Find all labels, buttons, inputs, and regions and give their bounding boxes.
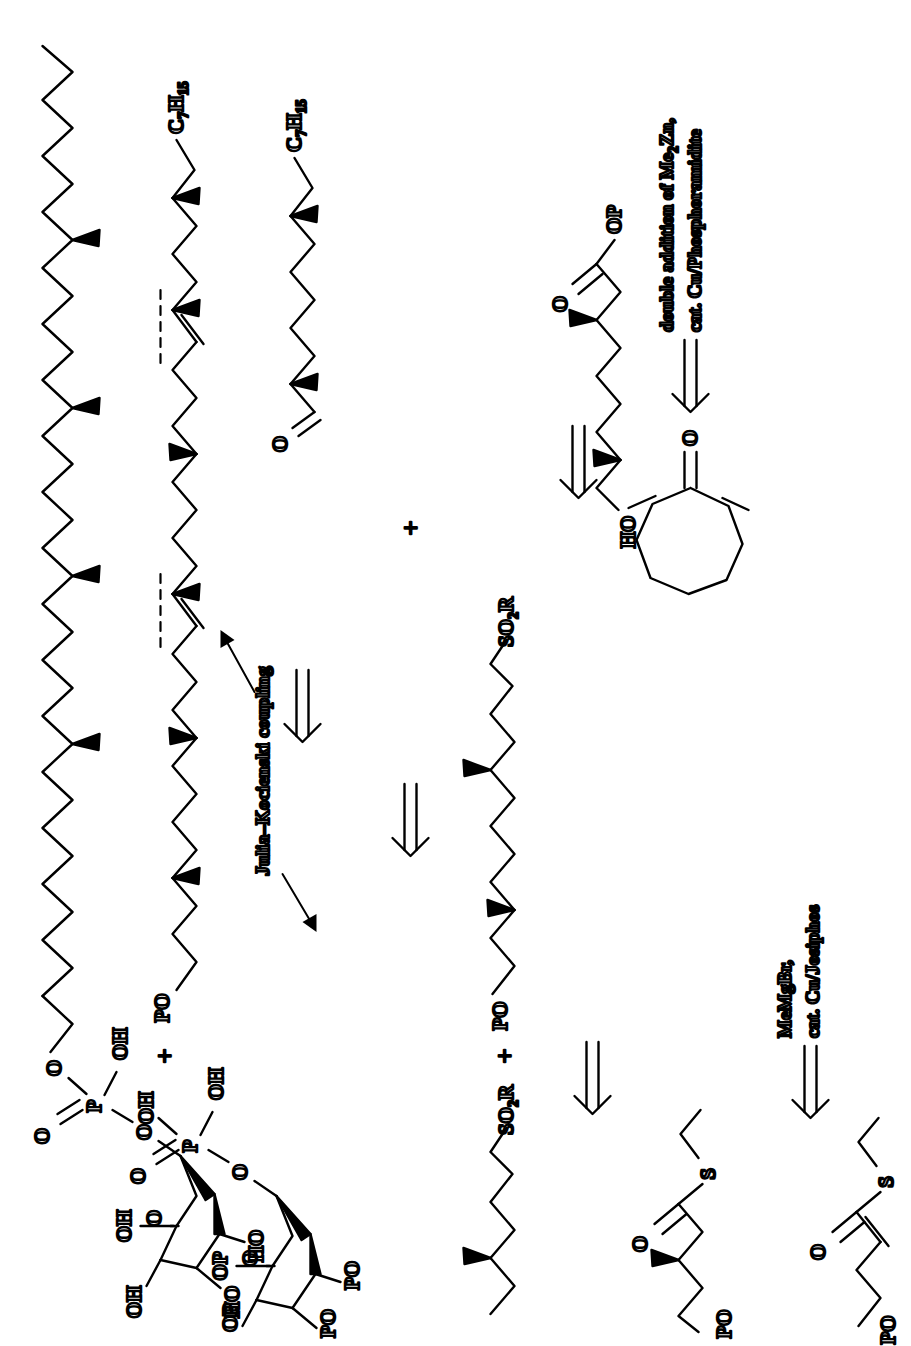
diene-phosphorus-label: P xyxy=(177,1139,201,1152)
canvas-background xyxy=(0,0,911,1346)
memgbr-condition-line2: cat. Cu/Josiphos xyxy=(801,905,822,1038)
memgbr-condition-line1: MeMgBr, xyxy=(773,960,794,1038)
cyclooctadienone-oxygen-label: O xyxy=(677,430,701,446)
enone-PO-label: PO xyxy=(875,1315,899,1344)
diene-phosphate-OH-upper-label: OH xyxy=(133,1092,157,1125)
diene-P-oxo-label: O xyxy=(125,1168,149,1184)
enone-sulfur-label: S xyxy=(873,1176,897,1188)
diene-OP-1-label: OP xyxy=(207,1251,231,1280)
plus-sign-lower-column3: + xyxy=(489,1049,518,1064)
thioester-sulfur-label: S xyxy=(695,1168,719,1180)
target-ring-oxygen-label: O xyxy=(141,1210,165,1226)
hydroxyester-OP-label: OP xyxy=(601,205,625,234)
diene-phosphate-OH-lower-label: OH xyxy=(203,1068,227,1101)
diene-PO-2-label: PO xyxy=(339,1261,363,1290)
target-P-oxo-label: O xyxy=(29,1128,53,1144)
target-phosphorus-label: P xyxy=(81,1099,105,1112)
hydroxyester-HO-label: HO xyxy=(615,516,639,549)
diene-PO-label: PO xyxy=(149,993,173,1022)
plus-sign-column2: + xyxy=(149,1049,178,1064)
retrosynthesis-scheme: O P O OH O O OH OH HO HO xyxy=(0,0,911,1346)
sulfone-upper-PO-label: PO xyxy=(487,1001,511,1030)
target-hydroxyl-1-label: OH xyxy=(111,1210,135,1243)
diene-glycosyl-oxygen-label: O xyxy=(227,1164,251,1180)
target-ester-oxygen-label: O xyxy=(41,1060,65,1076)
julia-kocienski-label: Julia–Kocienski coupling xyxy=(251,666,272,876)
diene-PO-1-label: PO xyxy=(315,1309,339,1338)
target-glycosyl-oxygen-label: O xyxy=(131,1124,155,1140)
hydroxyester-oxygen-label: O xyxy=(547,296,571,312)
aldehyde-oxygen-label: O xyxy=(267,436,291,452)
thioester-PO-label: PO xyxy=(711,1309,735,1338)
target-hydroxyl-2-label: OH xyxy=(121,1286,145,1319)
diene-ring-oxygen-label: O xyxy=(237,1250,261,1266)
enone-oxygen-label: O xyxy=(805,1244,829,1260)
diene-OP-2-label: OP xyxy=(217,1303,241,1332)
thioester-oxygen-label: O xyxy=(627,1236,651,1252)
plus-sign-upper-column3: + xyxy=(395,521,424,536)
double-addition-condition-line2: cat. Cu/Phosphoramidite xyxy=(683,129,704,332)
target-P-hydroxyl-label: OH xyxy=(107,1028,131,1061)
